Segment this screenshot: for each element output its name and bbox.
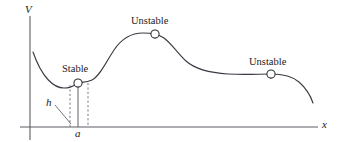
- unstable-maximum-label: Unstable: [131, 16, 168, 27]
- unstable-maximum-marker: [151, 30, 159, 38]
- unstable-inflection-label: Unstable: [249, 57, 286, 68]
- x-axis-label: x: [322, 119, 327, 130]
- plot-canvas: [0, 0, 340, 142]
- unstable-inflection-marker: [267, 70, 275, 78]
- potential-energy-figure: V x a h Stable Unstable Unstable: [0, 0, 340, 142]
- well-width-label-h: h: [46, 97, 52, 108]
- stable-equilibrium-label: Stable: [62, 64, 88, 75]
- y-axis-label: V: [25, 4, 32, 15]
- x-tick-label-a: a: [75, 128, 81, 139]
- h-leader-line: [55, 105, 71, 124]
- stable-equilibrium-marker: [74, 79, 82, 87]
